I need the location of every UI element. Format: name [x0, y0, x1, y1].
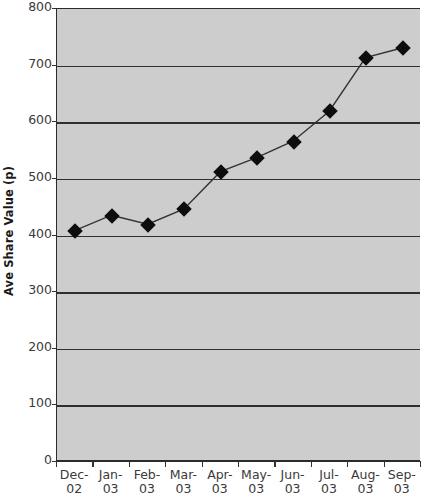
x-tick-mark [311, 461, 312, 467]
y-tick-label: 700 [18, 58, 52, 71]
x-tick-label-month: Dec- [60, 467, 89, 482]
x-tick-label-month: Apr- [207, 467, 232, 482]
x-tick-label-month: May- [241, 467, 271, 482]
x-tick-mark [129, 461, 130, 467]
x-tick-mark [274, 461, 275, 467]
y-tick-label: 200 [18, 341, 52, 354]
y-axis-ticks: 0100200300400500600700800 [14, 0, 52, 497]
gridline [57, 236, 420, 237]
x-tick-label-year: 03 [379, 482, 422, 496]
y-tick-label: 0 [18, 454, 52, 467]
x-tick-label-month: Jul- [319, 467, 339, 482]
x-tick-mark [56, 461, 57, 467]
share-value-line-chart: Ave Share Value (p) 01002003004005006007… [0, 0, 422, 497]
gridline [57, 292, 420, 293]
y-tick-label: 800 [18, 1, 52, 14]
x-tick-mark [384, 461, 385, 467]
y-tick-label: 400 [18, 228, 52, 241]
x-tick-mark [420, 461, 421, 467]
x-tick-label-month: Jan- [99, 467, 123, 482]
gridline [57, 349, 420, 350]
x-tick-label-month: Aug- [351, 467, 380, 482]
x-tick-label-month: Mar- [170, 467, 197, 482]
y-tick-label: 500 [18, 171, 52, 184]
gridline [57, 122, 420, 123]
gridline [57, 405, 420, 406]
x-tick-label-month: Jun- [281, 467, 305, 482]
y-tick-label: 600 [18, 114, 52, 127]
x-tick-mark [347, 461, 348, 467]
x-tick-mark [165, 461, 166, 467]
y-tick-label: 300 [18, 284, 52, 297]
x-tick-mark [92, 461, 93, 467]
gridline [57, 179, 420, 180]
plot-area [56, 8, 420, 461]
y-tick-label: 100 [18, 397, 52, 410]
x-tick-label-month: Feb- [134, 467, 161, 482]
x-tick-label-month: Sep- [388, 467, 416, 482]
x-tick-label: Sep-03 [379, 468, 422, 496]
x-tick-mark [238, 461, 239, 467]
x-tick-mark [202, 461, 203, 467]
